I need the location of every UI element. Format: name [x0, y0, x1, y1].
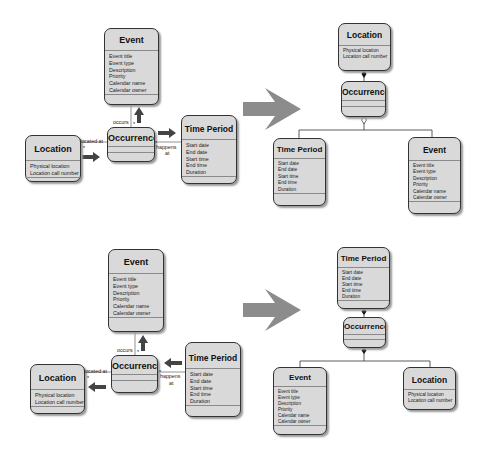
attribute: Event title — [113, 276, 159, 283]
occurs-label: occurs — [113, 119, 129, 125]
attribute: Start date — [186, 142, 232, 149]
attribute-list: Physical location Location call number — [339, 46, 390, 60]
attribute: Location call number — [408, 398, 451, 404]
attribute: Physical location — [30, 163, 76, 170]
composition-diamond-icon — [362, 70, 367, 78]
arrow-up-icon — [134, 107, 144, 123]
occurrence-class-box: Occurrence — [111, 355, 158, 393]
transform-arrow-icon — [243, 289, 303, 331]
attribute-list: Event title Event type Description Prior… — [409, 161, 460, 202]
location-class-box: Location Physical location Location call… — [338, 23, 391, 71]
class-title: Time Period — [182, 116, 236, 140]
attribute: End date — [186, 149, 232, 156]
attribute-list: Start date End date Start time End time … — [182, 140, 236, 177]
divider — [108, 147, 154, 153]
attribute: Calendar owner — [109, 87, 154, 94]
time-period-class-box: Time Period Start date End date Start ti… — [185, 342, 241, 417]
attribute-list: Event title Event type Description Prior… — [105, 51, 158, 95]
attribute: Event type — [113, 283, 159, 290]
attribute: Event title — [109, 53, 154, 60]
class-title: Event — [274, 368, 326, 387]
arrow-right-icon — [82, 152, 100, 162]
occurrence-class-box: Occurrence — [107, 127, 155, 162]
class-title: Time Period — [274, 139, 325, 159]
attribute: Duration — [190, 398, 236, 405]
multiplicity-label: * — [87, 375, 89, 381]
composition-diamond-icon — [362, 308, 367, 315]
multiplicity-label: * — [133, 121, 135, 127]
occurrence-class-box: Occurrence — [341, 81, 386, 117]
attribute-list: Physical location Location call number — [26, 161, 80, 178]
attribute: Location call number — [35, 399, 80, 406]
occurs-label: occurs — [117, 347, 133, 353]
class-title: Event — [105, 29, 158, 51]
attribute: Start time — [190, 385, 236, 392]
transform-arrow-icon — [243, 88, 303, 130]
attribute-list: Physical location Location call number — [404, 390, 455, 404]
class-title: Time Period — [186, 343, 240, 369]
attribute: Calendar owner — [413, 195, 456, 201]
at-label: at — [165, 150, 169, 156]
happens-label: happens — [160, 373, 180, 379]
attribute: Priority — [109, 73, 154, 80]
event-class-box: Event Event title Event type Description… — [108, 249, 164, 332]
divider — [344, 335, 385, 340]
attribute-list: Event title Event type Description Prior… — [274, 387, 326, 426]
attribute-list: Start date End date Start time End time … — [338, 268, 389, 301]
divider — [342, 101, 385, 107]
time-period-class-box: Time Period Start date End date Start ti… — [337, 247, 390, 309]
class-title: Occurrence — [112, 356, 157, 375]
attribute: Location call number — [343, 54, 386, 60]
attribute: Calendar owner — [278, 419, 322, 425]
event-class-box: Event Event title Event type Description… — [273, 367, 327, 435]
attribute: Physical location — [35, 392, 80, 399]
location-class-box: Location Physical location Location call… — [25, 135, 81, 182]
class-title: Location — [404, 368, 455, 390]
location-class-box: Location Physical location Location call… — [30, 364, 85, 414]
multiplicity-label: * — [83, 145, 85, 151]
arrow-left-icon — [164, 358, 182, 368]
attribute: End time — [190, 391, 236, 398]
attribute: Event type — [109, 60, 154, 67]
class-title: Occurrence — [342, 82, 385, 101]
located-at-label: located at — [80, 138, 103, 144]
class-title: Occurrence — [108, 128, 154, 147]
attribute: Duration — [278, 187, 321, 193]
class-title: Event — [409, 138, 460, 161]
attribute: Calendar name — [109, 80, 154, 87]
at-label: at — [169, 380, 173, 386]
class-title: Event — [109, 250, 163, 274]
attribute: Start time — [186, 156, 232, 163]
attribute: End date — [190, 378, 236, 385]
attribute-list: Start date End date Start time End time … — [274, 159, 325, 194]
attribute-list: Physical location Location call number — [31, 390, 84, 407]
attribute: Priority — [113, 296, 159, 303]
attribute: End time — [186, 162, 232, 169]
located-at-label: located at — [84, 368, 107, 374]
arrow-left-icon — [88, 382, 106, 392]
event-class-box: Event Event title Event type Description… — [104, 28, 159, 105]
class-title: Location — [339, 24, 390, 46]
divider — [112, 375, 157, 381]
attribute-list: Start date End date Start time End time … — [186, 369, 240, 406]
time-period-class-box: Time Period Start date End date Start ti… — [273, 138, 326, 206]
aggregation-diamond-icon — [362, 116, 367, 124]
composition-diamond-icon — [362, 347, 367, 354]
class-title: Location — [26, 136, 80, 161]
occurrence-class-box: Occurrence — [343, 317, 386, 348]
location-class-box: Location Physical location Location call… — [403, 367, 456, 410]
class-title: Occurrence — [344, 318, 385, 335]
multiplicity-label: * — [137, 349, 139, 355]
class-title: Location — [31, 365, 84, 390]
attribute: Location call number — [30, 170, 76, 177]
attribute: Description — [109, 67, 154, 74]
attribute: Calendar owner — [113, 310, 159, 317]
attribute-list: Event title Event type Description Prior… — [109, 274, 163, 318]
attribute: Calendar name — [113, 303, 159, 310]
class-title: Time Period — [338, 248, 389, 268]
event-class-box: Event Event title Event type Description… — [408, 137, 461, 214]
arrow-up-icon — [138, 335, 148, 351]
time-period-class-box: Time Period Start date End date Start ti… — [181, 115, 237, 184]
attribute: Start date — [190, 371, 236, 378]
attribute: Duration — [186, 169, 232, 176]
